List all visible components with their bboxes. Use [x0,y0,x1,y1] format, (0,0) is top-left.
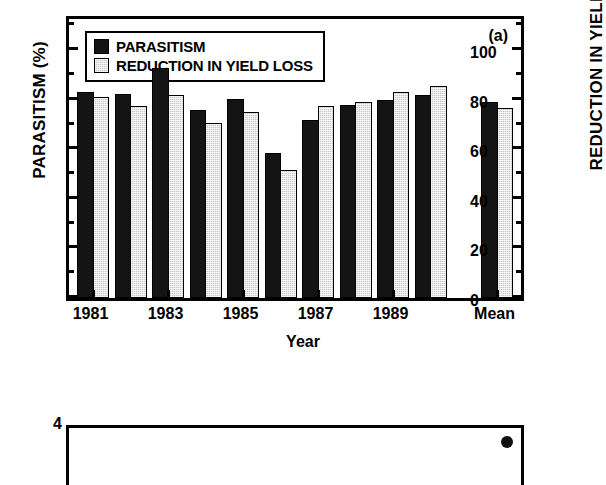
y-axis-left-title: PARASITISM (%) [30,0,50,240]
legend-swatch-dark-icon [94,39,109,54]
x-tick-1987 [317,290,320,298]
bar-reduction-1985 [243,112,260,298]
y-tick-label-right-60: 60 [470,144,530,160]
bar-reduction-1986 [280,170,297,298]
y-minor-tick-right-10 [516,270,521,273]
y-minor-tick-left-110 [69,22,74,25]
bar-parasitism-1983 [152,68,169,298]
bar-parasitism-1984 [190,110,207,298]
y-tick-label-right-100: 100 [470,45,530,61]
x-tick-1989 [392,290,395,298]
plot-area-b [66,425,524,485]
x-tick-1985 [242,290,245,298]
bar-reduction-1990 [430,86,447,298]
bar-reduction-1983 [168,95,185,298]
y-minor-tick-left-30 [69,221,74,224]
legend-item-reduction-in-yield-loss: REDUCTION IN YIELD LOSS [94,56,313,75]
bar-parasitism-1986 [265,153,282,298]
bar-parasitism-1988 [340,105,357,298]
y-minor-tick-right-30 [516,221,521,224]
y-minor-tick-right-110 [516,22,521,25]
x-tick-label-1989: 1989 [346,305,436,323]
y-minor-tick-left-70 [69,122,74,125]
bar-reduction-1981 [93,97,110,298]
bar-parasitism-1987 [302,120,319,298]
bar-reduction-1988 [355,102,372,298]
y-minor-tick-right-90 [516,72,521,75]
bar-parasitism-1981 [77,92,94,298]
panel-b-y-top-tick-label: 4 [46,415,62,433]
bar-reduction-1982 [130,106,147,298]
y-minor-tick-left-90 [69,72,74,75]
data-point-marker [501,436,513,448]
chart-legend: PARASITISM REDUCTION IN YIELD LOSS [85,31,325,82]
panel-label-a: (a) [488,27,508,45]
bar-parasitism-1982 [115,94,132,298]
x-tick-label-Mean: Mean [450,305,540,323]
legend-swatch-light-icon [94,58,109,73]
x-tick-1983 [167,290,170,298]
y-tick-left-100 [69,47,78,50]
plot-area-a: (a) PARASITISM REDUCTION IN YIELD LOSS [66,16,524,301]
bar-reduction-1987 [318,106,335,298]
legend-item-parasitism: PARASITISM [94,37,313,56]
chart-panel-b-partial: 4 [0,370,606,436]
y-tick-label-right-20: 20 [470,243,530,259]
chart-panel-a: PARASITISM (%) REDUCTION IN YIELD LOSS (… [0,0,606,370]
y-axis-right-title: REDUCTION IN YIELD LOSS (%) [587,0,606,188]
bar-parasitism-1985 [227,99,244,299]
y-minor-tick-right-70 [516,122,521,125]
bar-parasitism-1990 [415,95,432,298]
y-minor-tick-left-50 [69,171,74,174]
y-minor-tick-left-10 [69,270,74,273]
x-tick-1981 [92,290,95,298]
y-tick-label-right-40: 40 [470,194,530,210]
bar-reduction-1984 [205,123,222,298]
x-axis-title: Year [0,333,606,351]
legend-label-parasitism: PARASITISM [116,38,205,55]
bar-parasitism-1989 [377,100,394,298]
bar-reduction-1989 [393,92,410,298]
y-tick-label-right-80: 80 [470,95,530,111]
y-minor-tick-right-50 [516,171,521,174]
legend-label-reduction-in-yield-loss: REDUCTION IN YIELD LOSS [116,57,313,74]
